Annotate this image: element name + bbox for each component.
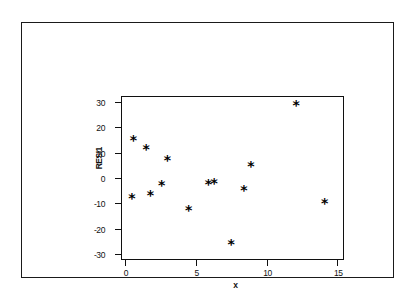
y-tick: 0 [115,178,122,179]
x-tick-label: 10 [263,269,272,278]
y-tick: -20 [115,229,122,230]
figure-outer-border: RESI1 x 3020100-10-20-30 051015 [21,22,394,278]
x-tick: 10 [267,259,268,266]
y-tick: 10 [115,153,122,154]
y-tick: -10 [115,203,122,204]
y-tick-label: -10 [94,200,105,209]
x-tick: 0 [125,259,126,266]
y-tick-label: 30 [96,99,105,108]
y-tick: 30 [115,102,122,103]
x-tick: 15 [337,259,338,266]
x-axis-title-text: x [233,280,237,290]
x-tick-label: 15 [334,269,343,278]
plot-area: 3020100-10-20-30 051015 [121,96,344,260]
x-tick-label: 0 [124,269,128,278]
x-tick-label: 5 [194,269,198,278]
y-tick-label: 10 [96,149,105,158]
x-axis-title: x [22,281,415,290]
y-tick: 20 [115,127,122,128]
y-tick-label: -30 [94,251,105,260]
y-tick-label: 0 [101,175,105,184]
y-tick: -30 [115,254,122,255]
x-tick: 5 [196,259,197,266]
y-tick-label: 20 [96,124,105,133]
y-tick-label: -20 [94,225,105,234]
